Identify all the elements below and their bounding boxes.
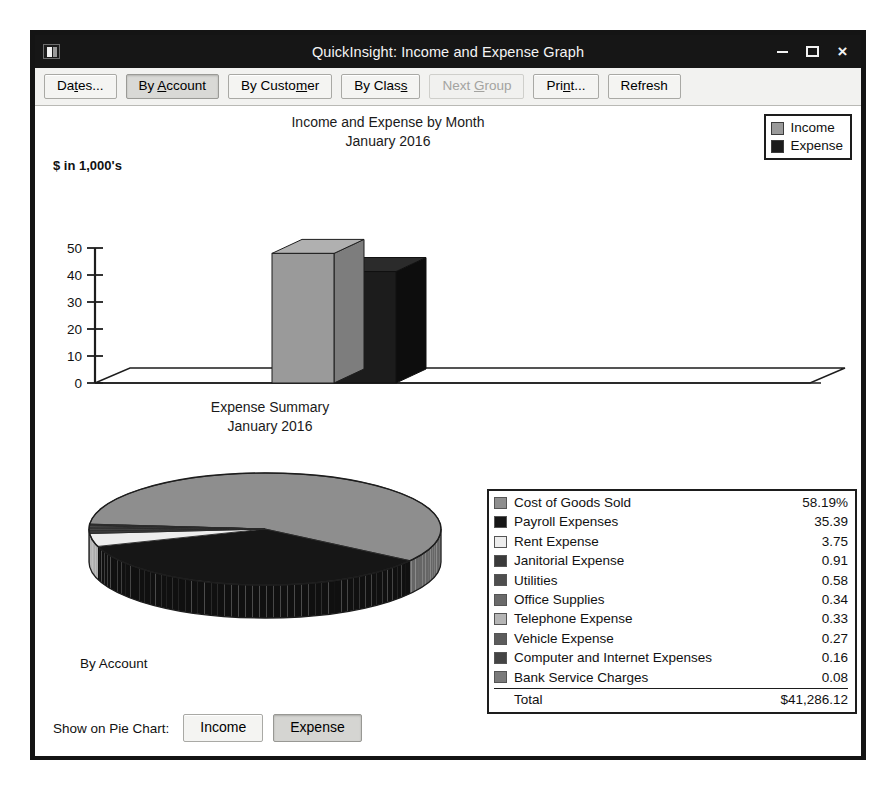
pie-chart-legend: Cost of Goods Sold58.19%Payroll Expenses… xyxy=(487,489,857,714)
svg-text:20: 20 xyxy=(67,322,82,337)
pie-legend-label: Rent Expense xyxy=(514,532,822,551)
by-account-button[interactable]: By Account xyxy=(126,74,220,100)
pie-legend-label: Cost of Goods Sold xyxy=(514,493,802,512)
maximize-icon[interactable] xyxy=(806,46,819,57)
refresh-button[interactable]: Refresh xyxy=(608,74,681,100)
pie-legend-swatch-icon xyxy=(494,574,507,586)
minimize-icon[interactable] xyxy=(776,45,789,58)
bar-chart: Income and Expense by Month January 2016… xyxy=(35,106,861,396)
pie-legend-swatch-icon xyxy=(494,652,507,664)
print-button[interactable]: Print... xyxy=(533,74,598,100)
bar-income xyxy=(272,239,364,383)
by-class-button[interactable]: By Class xyxy=(341,74,420,100)
pie-legend-value: 0.34 xyxy=(822,590,848,609)
pie-legend-row[interactable]: Computer and Internet Expenses0.16 xyxy=(494,648,848,667)
title-bar: QuickInsight: Income and Expense Graph × xyxy=(35,35,861,68)
pie-chart: Expense Summary January 2016 Cost of Goo… xyxy=(35,396,861,646)
window-title: QuickInsight: Income and Expense Graph xyxy=(35,44,861,60)
pie-legend-swatch-icon xyxy=(494,594,507,606)
pie-legend-row[interactable]: Office Supplies0.34 xyxy=(494,590,848,609)
by-customer-button[interactable]: By Customer xyxy=(228,74,332,100)
y-axis-ticks: 01020304050 xyxy=(67,241,103,391)
pie-chart-title: Expense Summary January 2016 xyxy=(95,398,445,436)
grouping-label: By Account xyxy=(80,656,148,671)
pie-legend-total-label: Total xyxy=(514,690,780,709)
app-window-icon xyxy=(43,44,60,59)
pie-legend-label: Utilities xyxy=(514,571,822,590)
pie-legend-row[interactable]: Utilities0.58 xyxy=(494,571,848,590)
pie-legend-label: Bank Service Charges xyxy=(514,668,822,687)
close-icon[interactable]: × xyxy=(836,43,849,60)
pie-legend-swatch-icon xyxy=(494,633,507,645)
svg-text:40: 40 xyxy=(67,268,82,283)
application-window: QuickInsight: Income and Expense Graph ×… xyxy=(30,30,866,760)
pie-legend-row[interactable]: Janitorial Expense0.91 xyxy=(494,551,848,570)
svg-text:30: 30 xyxy=(67,295,82,310)
pie-legend-value: 0.58 xyxy=(822,571,848,590)
bar-chart-canvas: 01020304050 Jan 16 xyxy=(35,106,861,396)
pie-legend-row[interactable]: Vehicle Expense0.27 xyxy=(494,629,848,648)
pie-chart-title-line1: Expense Summary xyxy=(95,398,445,417)
pie-legend-row[interactable]: Telephone Expense0.33 xyxy=(494,609,848,628)
pie-legend-label: Office Supplies xyxy=(514,590,822,609)
chart-floor xyxy=(95,368,845,383)
pie-expense-button[interactable]: Expense xyxy=(273,714,361,742)
pie-legend-value: 58.19% xyxy=(802,493,848,512)
pie-legend-swatch-icon xyxy=(494,613,507,625)
pie-legend-value: 3.75 xyxy=(822,532,848,551)
screen: QuickInsight: Income and Expense Graph ×… xyxy=(0,0,893,792)
pie-legend-total-row: Total $41,286.12 xyxy=(494,688,848,709)
pie-legend-label: Vehicle Expense xyxy=(514,629,822,648)
svg-text:0: 0 xyxy=(74,376,82,391)
pie-legend-swatch-icon xyxy=(494,671,507,683)
show-on-pie-chart-label: Show on Pie Chart: xyxy=(53,721,169,736)
pie-legend-label: Telephone Expense xyxy=(514,609,822,628)
pie-legend-row[interactable]: Cost of Goods Sold58.19% xyxy=(494,493,848,512)
pie-legend-label: Payroll Expenses xyxy=(514,512,814,531)
svg-text:50: 50 xyxy=(67,241,82,256)
pie-legend-row[interactable]: Payroll Expenses35.39 xyxy=(494,512,848,531)
total-spacer xyxy=(494,694,507,706)
pie-legend-label: Computer and Internet Expenses xyxy=(514,648,822,667)
pie-legend-value: 0.27 xyxy=(822,629,848,648)
pie-legend-total-value: $41,286.12 xyxy=(780,690,848,709)
pie-legend-swatch-icon xyxy=(494,536,507,548)
pie-legend-value: 0.08 xyxy=(822,668,848,687)
pie-income-button[interactable]: Income xyxy=(183,714,263,742)
svg-text:10: 10 xyxy=(67,349,82,364)
chart-client-area: Income and Expense by Month January 2016… xyxy=(35,106,861,756)
pie-legend-row[interactable]: Bank Service Charges0.08 xyxy=(494,668,848,687)
pie-legend-value: 0.33 xyxy=(822,609,848,628)
pie-legend-swatch-icon xyxy=(494,555,507,567)
pie-series-toggle-bar: Show on Pie Chart: Income Expense xyxy=(35,708,861,748)
pie-legend-value: 0.91 xyxy=(822,551,848,570)
pie-legend-label: Janitorial Expense xyxy=(514,551,822,570)
toolbar: Dates... By Account By Customer By Class… xyxy=(35,68,861,106)
pie-legend-value: 0.16 xyxy=(822,648,848,667)
window-controls: × xyxy=(776,43,849,60)
pie-legend-swatch-icon xyxy=(494,516,507,528)
pie-chart-canvas xyxy=(65,451,465,636)
pie-legend-value: 35.39 xyxy=(814,512,848,531)
pie-legend-row[interactable]: Rent Expense3.75 xyxy=(494,532,848,551)
pie-chart-title-line2: January 2016 xyxy=(95,417,445,436)
dates-button[interactable]: Dates... xyxy=(44,74,117,100)
pie-legend-swatch-icon xyxy=(494,497,507,509)
next-group-button[interactable]: Next Group xyxy=(429,74,524,100)
